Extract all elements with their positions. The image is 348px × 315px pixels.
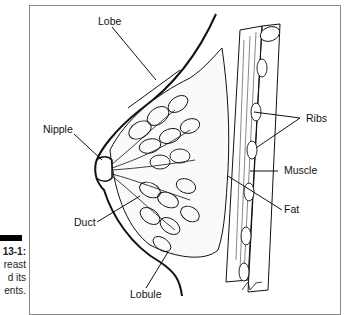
fat-leader (228, 176, 282, 210)
nipple-leader (74, 134, 102, 160)
lobe-leader (112, 27, 156, 80)
ribs-leader-2 (256, 118, 300, 148)
label-nipple: Nipple (43, 123, 73, 135)
ribs (239, 24, 282, 281)
lobule-leader (146, 252, 168, 288)
artist-signature (242, 282, 262, 290)
label-duct: Duct (74, 216, 96, 228)
label-lobule: Lobule (130, 288, 162, 300)
label-ribs: Ribs (306, 112, 327, 124)
nipple-shape (96, 157, 112, 181)
label-muscle: Muscle (284, 164, 317, 176)
label-fat: Fat (284, 203, 299, 215)
label-lobe: Lobe (98, 15, 121, 27)
